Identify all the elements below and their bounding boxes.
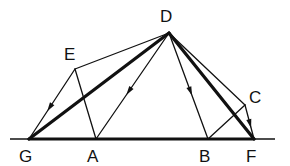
- point-label-g: G: [19, 147, 32, 166]
- segment-ea: [75, 69, 96, 139]
- point-label-e: E: [64, 45, 75, 64]
- segment-da: [96, 33, 169, 139]
- segment-dg: [29, 33, 169, 139]
- point-label-c: C: [249, 88, 261, 107]
- point-label-a: A: [87, 147, 99, 166]
- point-label-b: B: [199, 147, 210, 166]
- segment-db: [169, 33, 208, 139]
- point-label-d: D: [160, 7, 172, 26]
- geometry-diagram: D E C G A B F: [0, 0, 290, 166]
- segment-df: [169, 33, 254, 139]
- arrowhead-icon: [47, 102, 54, 111]
- arrowhead-icon: [186, 86, 192, 95]
- arrowhead-icon: [126, 86, 133, 95]
- diagram-arrows: [47, 86, 251, 128]
- arrowhead-icon: [246, 119, 251, 128]
- point-label-f: F: [246, 147, 256, 166]
- diagram-lines: [10, 33, 275, 139]
- segment-dc: [169, 33, 245, 105]
- segment-de: [75, 33, 169, 69]
